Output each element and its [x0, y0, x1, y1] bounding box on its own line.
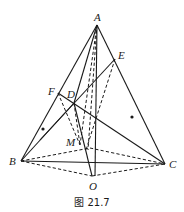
segment-BC	[21, 161, 165, 164]
segment-AC	[97, 25, 165, 164]
segment-OC	[92, 164, 165, 176]
label-D: D	[66, 88, 75, 100]
marker-dot-right	[130, 115, 133, 118]
segment-BO	[21, 161, 92, 176]
label-M: M	[65, 136, 76, 148]
segment-AM	[80, 25, 97, 145]
label-F: F	[47, 85, 55, 97]
segment-EM	[86, 59, 115, 150]
label-B: B	[9, 155, 16, 167]
geometry-figure: A E F D M B C O 图 21.7	[0, 0, 184, 212]
label-A: A	[93, 11, 101, 23]
figure-caption: 图 21.7	[74, 197, 109, 208]
label-C: C	[169, 158, 177, 170]
label-O: O	[89, 180, 97, 192]
segment-AB	[21, 25, 97, 161]
label-E: E	[117, 49, 125, 61]
marker-dot-left	[41, 127, 44, 130]
